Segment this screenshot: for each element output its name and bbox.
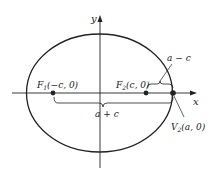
a-plus-c-label: a + c	[95, 109, 119, 119]
ellipse-diagram: x y F1(−c, 0) F2(c, 0) V2(a, 0) a − c a …	[0, 0, 211, 181]
y-axis-label: y	[90, 13, 97, 24]
vertex-v2-point	[170, 90, 176, 96]
brace-a-minus-c	[147, 81, 173, 88]
x-axis-label: x	[193, 96, 199, 107]
focus-f1-point	[51, 91, 56, 96]
vertex-v2-label: V2(a, 0)	[171, 122, 206, 133]
x-axis-arrow-icon	[190, 91, 197, 96]
focus-f2-point	[144, 91, 149, 96]
vertex-v2-leader	[174, 96, 184, 117]
brace-a-plus-c	[54, 97, 173, 107]
focus-f2-label: F2(c, 0)	[115, 80, 150, 91]
focus-f1-label: F1(−c, 0)	[36, 80, 79, 91]
a-minus-c-label: a − c	[167, 53, 191, 63]
y-axis-arrow-icon	[98, 15, 103, 22]
